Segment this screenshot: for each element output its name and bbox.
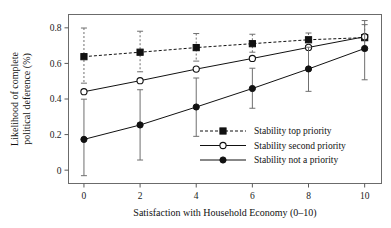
legend-item-2[interactable]: Stability second priority — [200, 141, 346, 151]
x-tick-label: 8 — [306, 191, 311, 201]
series-1 — [81, 25, 368, 84]
y-axis-label-line2: political deference (%) — [21, 53, 33, 145]
data-point-filled-circle — [305, 66, 311, 72]
legend-label: Stability not a priority — [254, 155, 338, 165]
x-axis-label: Satisfaction with Household Economy (0–1… — [133, 207, 316, 219]
series-3 — [81, 21, 368, 176]
series-2 — [81, 34, 368, 95]
x-axis-ticks: 0246810 — [82, 184, 370, 201]
legend-marker-filled-circle — [220, 157, 226, 163]
legend-marker-open-circle — [220, 142, 226, 148]
series-line — [84, 38, 365, 57]
data-point-filled-circle — [137, 122, 143, 128]
legend-label: Stability second priority — [254, 141, 346, 151]
data-point-open-circle — [193, 66, 199, 72]
series-layer — [81, 21, 368, 176]
x-tick-label: 0 — [82, 191, 87, 201]
data-point-open-circle — [137, 78, 143, 84]
figure-container: 00.20.40.60.8 0246810 Stability top prio… — [0, 0, 391, 228]
legend-marker-square — [220, 128, 226, 134]
data-point-filled-circle — [362, 45, 368, 51]
y-tick-label: 0.8 — [50, 23, 62, 33]
data-point-open-circle — [81, 89, 87, 95]
data-point-square — [305, 37, 311, 43]
data-point-square — [249, 41, 255, 47]
y-tick-label: 0.2 — [50, 130, 62, 140]
y-tick-label: 0.6 — [50, 59, 62, 69]
data-point-filled-circle — [81, 136, 87, 142]
y-axis-label-line1: Likelihood of complete — [9, 52, 20, 146]
data-point-filled-circle — [193, 104, 199, 110]
y-tick-label: 0 — [57, 166, 62, 176]
legend-item-1[interactable]: Stability top priority — [200, 126, 332, 136]
deference-line-chart: 00.20.40.60.8 0246810 Stability top prio… — [0, 0, 391, 228]
chart-legend: Stability top priorityStability second p… — [200, 126, 346, 165]
x-tick-label: 2 — [138, 191, 143, 201]
x-tick-label: 6 — [250, 191, 255, 201]
y-tick-label: 0.4 — [50, 94, 62, 104]
y-axis-ticks: 00.20.40.60.8 — [50, 23, 69, 175]
data-point-square — [137, 49, 143, 55]
data-point-open-circle — [249, 55, 255, 61]
x-tick-label: 4 — [194, 191, 199, 201]
legend-label: Stability top priority — [254, 126, 332, 136]
x-tick-label: 10 — [360, 191, 370, 201]
data-point-square — [81, 54, 87, 60]
data-point-filled-circle — [249, 85, 255, 91]
data-point-square — [193, 44, 199, 50]
legend-item-3[interactable]: Stability not a priority — [200, 155, 338, 165]
